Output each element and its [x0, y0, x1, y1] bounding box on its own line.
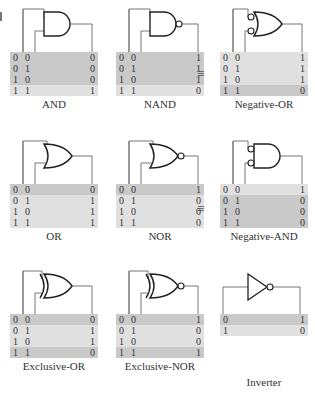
output-value: 1 — [90, 85, 95, 96]
input-value: 0 — [223, 52, 228, 63]
truth-table-row: 100 — [220, 206, 308, 217]
gate-label: Negative-AND — [212, 230, 315, 242]
gate-label: NAND — [108, 98, 212, 110]
output-value: 0 — [300, 85, 305, 96]
input-value: 1 — [235, 217, 240, 228]
gate-nor: 001010100110NOR — [108, 132, 208, 262]
input-value: 1 — [131, 63, 136, 74]
input-value: 0 — [223, 314, 228, 325]
output-value: 0 — [300, 206, 305, 217]
output-value: 0 — [196, 217, 201, 228]
input-value: 1 — [13, 85, 18, 96]
input-value: 1 — [25, 325, 30, 336]
output-value: 0 — [300, 325, 305, 336]
output-value: 1 — [300, 314, 305, 325]
truth-table-row: 001 — [116, 52, 204, 63]
truth-table: 001010100110 — [116, 184, 204, 228]
or-gate-icon — [2, 132, 102, 192]
input-value: 1 — [13, 206, 18, 217]
input-value: 1 — [13, 74, 18, 85]
input-value: 0 — [13, 195, 18, 206]
output-value: 1 — [196, 314, 201, 325]
gate-inverter: 0110Inverter — [212, 262, 312, 392]
input-value: 1 — [235, 85, 240, 96]
input-value: 0 — [25, 74, 30, 85]
input-value: 1 — [223, 206, 228, 217]
inverter-symbol-icon — [248, 274, 273, 300]
input-value: 0 — [119, 52, 124, 63]
output-value: 1 — [90, 325, 95, 336]
negative-and-gate-symbol-icon — [248, 144, 280, 168]
input-value: 1 — [131, 347, 136, 358]
output-value: 1 — [196, 347, 201, 358]
truth-table-row: 001 — [116, 314, 204, 325]
gate-negative-and: 001010100110Negative-AND — [212, 132, 312, 262]
output-value: 1 — [90, 206, 95, 217]
input-value: 0 — [223, 63, 228, 74]
truth-table-row: 101 — [10, 336, 98, 347]
truth-table-row: 110 — [220, 85, 308, 96]
truth-table: 001010100110 — [220, 184, 308, 228]
input-value: 1 — [13, 217, 18, 228]
and-gate-icon — [2, 0, 102, 60]
truth-table-row: 000 — [10, 52, 98, 63]
truth-table-row: 10 — [220, 325, 308, 336]
truth-table-row: 111 — [10, 217, 98, 228]
gate-nand: 001011101110NAND — [108, 0, 208, 130]
truth-table-row: 101 — [116, 74, 204, 85]
input-value: 1 — [131, 85, 136, 96]
input-value: 0 — [119, 63, 124, 74]
input-value: 0 — [13, 63, 18, 74]
input-value: 1 — [13, 347, 18, 358]
truth-table-row: 110 — [116, 217, 204, 228]
gate-label: Exclusive-NOR — [108, 360, 212, 372]
truth-table-row: 100 — [116, 206, 204, 217]
truth-table: 000011101111 — [10, 184, 98, 228]
input-value: 0 — [13, 52, 18, 63]
gate-label: NOR — [108, 230, 212, 242]
input-value: 0 — [131, 314, 136, 325]
input-value: 0 — [131, 206, 136, 217]
input-value: 0 — [235, 52, 240, 63]
negative-and-gate-icon — [212, 132, 312, 192]
truth-table-row: 101 — [10, 206, 98, 217]
or-gate-symbol-icon — [44, 144, 72, 168]
exclusive-or-gate-symbol-icon — [40, 274, 72, 298]
truth-table: 001011101110 — [116, 52, 204, 96]
input-value: 0 — [131, 336, 136, 347]
truth-table-row: 111 — [10, 85, 98, 96]
output-value: 1 — [196, 184, 201, 195]
input-value: 1 — [223, 325, 228, 336]
input-value: 1 — [119, 74, 124, 85]
nand-gate-symbol-icon — [150, 12, 182, 36]
input-value: 0 — [119, 195, 124, 206]
input-value: 1 — [131, 217, 136, 228]
truth-table-row: 101 — [220, 74, 308, 85]
output-value: 0 — [90, 347, 95, 358]
input-value: 0 — [235, 184, 240, 195]
truth-table-row: 110 — [220, 217, 308, 228]
truth-table-row: 100 — [10, 74, 98, 85]
input-value: 0 — [131, 184, 136, 195]
input-value: 0 — [223, 184, 228, 195]
truth-table-row: 011 — [220, 63, 308, 74]
and-gate-symbol-icon — [44, 12, 70, 36]
gate-label: Inverter — [212, 376, 315, 388]
output-value: 0 — [90, 184, 95, 195]
input-value: 0 — [25, 184, 30, 195]
nor-gate-icon — [108, 132, 208, 192]
input-value: 1 — [235, 195, 240, 206]
truth-table-row: 011 — [10, 325, 98, 336]
truth-table: 001010100111 — [116, 314, 204, 358]
nand-gate-icon — [108, 0, 208, 60]
input-value: 1 — [235, 63, 240, 74]
input-value: 1 — [25, 217, 30, 228]
truth-table: 0110 — [220, 314, 308, 336]
truth-table-row: 110 — [116, 85, 204, 96]
truth-table-row: 111 — [116, 347, 204, 358]
output-value: 1 — [196, 52, 201, 63]
truth-table-row: 001 — [220, 184, 308, 195]
input-value: 1 — [119, 336, 124, 347]
output-value: 1 — [90, 195, 95, 206]
truth-table: 000010100111 — [10, 52, 98, 96]
